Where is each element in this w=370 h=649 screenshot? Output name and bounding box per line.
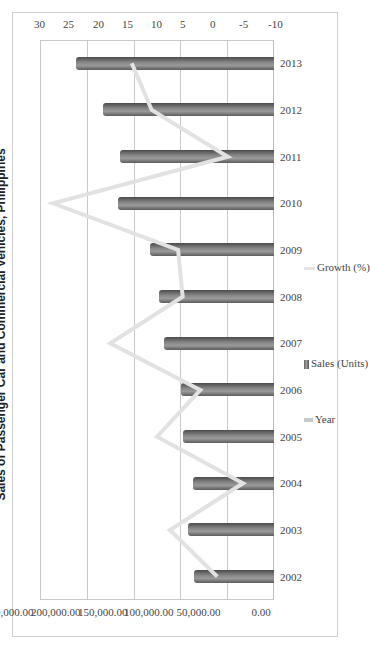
right-axis-tick-label: 5: [180, 18, 186, 30]
left-axis-tick-label: 150,000.00: [78, 606, 128, 618]
legend-item-growth: Growth (%): [304, 261, 370, 273]
x-axis-tick-label: 2006: [280, 384, 302, 396]
legend-swatch-year-icon: [304, 418, 313, 422]
x-axis-tick-label: 2002: [280, 571, 302, 583]
legend-swatch-sales-icon: [304, 360, 309, 369]
x-axis-tick-label: 2010: [280, 197, 302, 209]
left-axis-tick-label: 50,000.00: [177, 606, 221, 618]
x-axis-tick-label: 2012: [280, 104, 302, 116]
x-axis-tick-label: 2011: [280, 151, 302, 163]
left-axis-tick-label: 200,000.00: [31, 606, 81, 618]
x-axis-tick-label: 2005: [280, 431, 302, 443]
right-axis-tick-label: 30: [34, 18, 45, 30]
right-axis-tick-label: 0: [210, 18, 216, 30]
legend: Year Sales (Units) Growth (%): [306, 0, 326, 649]
legend-item-year: Year: [304, 413, 335, 425]
right-axis-tick-label: 10: [151, 18, 162, 30]
left-axis-tick-label: 100,000.00: [124, 606, 174, 618]
legend-label: Year: [315, 413, 335, 425]
plot-area: [40, 40, 274, 600]
x-axis-tick-label: 2007: [280, 337, 302, 349]
growth-line: [40, 40, 274, 600]
x-axis-tick-label: 2004: [280, 477, 302, 489]
x-axis-tick-label: 2008: [280, 291, 302, 303]
right-axis-tick-label: -5: [239, 18, 248, 30]
legend-item-sales: Sales (Units): [304, 357, 368, 369]
legend-label: Growth (%): [317, 261, 370, 273]
right-axis-tick-label: 15: [122, 18, 133, 30]
right-axis-tick-label: 20: [93, 18, 104, 30]
left-axis-tick-label: 0.00: [252, 606, 271, 618]
right-axis-tick-label: 25: [63, 18, 74, 30]
x-axis-tick-label: 2003: [280, 524, 302, 536]
chart-title: Sales of Passenger Car and Commercial Ve…: [0, 0, 8, 649]
x-axis-tick-label: 2013: [280, 57, 302, 69]
legend-swatch-growth-icon: [304, 267, 315, 270]
right-axis-tick-label: -10: [268, 18, 283, 30]
left-axis-tick-label: 250,000.00: [0, 606, 34, 618]
x-axis-tick-label: 2009: [280, 244, 302, 256]
legend-label: Sales (Units): [311, 357, 368, 369]
